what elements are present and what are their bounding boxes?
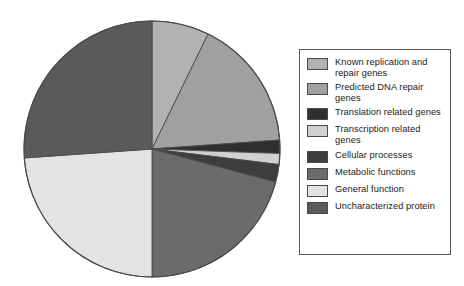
- legend-swatch-metabolic-functions: [307, 168, 328, 180]
- legend-swatch-translation-related-genes: [307, 108, 328, 120]
- legend-item-metabolic-functions: Metabolic functions: [307, 167, 444, 180]
- legend-label-known-replication-and-repair-genes: Known replication and repair genes: [335, 57, 444, 78]
- legend-swatch-general-function: [307, 185, 328, 197]
- legend-swatch-uncharacterized-protein: [307, 202, 328, 214]
- legend-swatch-cellular-processes: [307, 151, 328, 163]
- legend-item-translation-related-genes: Translation related genes: [307, 107, 444, 120]
- pie-slice-uncharacterized-protein: [24, 21, 152, 158]
- pie-chart-svg: [22, 19, 282, 279]
- legend-label-translation-related-genes: Translation related genes: [335, 107, 441, 118]
- legend-swatch-transcription-related-genes: [307, 125, 328, 137]
- legend-item-transcription-related-genes: Transcription related genes: [307, 124, 444, 145]
- legend-label-transcription-related-genes: Transcription related genes: [335, 124, 444, 145]
- legend-item-general-function: General function: [307, 184, 444, 197]
- pie-slice-general-function: [24, 149, 152, 277]
- legend-label-predicted-dna-repair-genes: Predicted DNA repair genes: [335, 82, 444, 103]
- legend-label-metabolic-functions: Metabolic functions: [335, 167, 416, 178]
- legend-swatch-predicted-dna-repair-genes: [307, 83, 328, 95]
- pie-chart-plot-area: [22, 19, 282, 279]
- pie-slice-group: [24, 21, 280, 277]
- legend-item-predicted-dna-repair-genes: Predicted DNA repair genes: [307, 82, 444, 103]
- chart-legend: Known replication and repair genes Predi…: [299, 49, 451, 255]
- legend-label-general-function: General function: [335, 184, 404, 195]
- legend-swatch-known-replication-and-repair-genes: [307, 58, 328, 70]
- legend-label-uncharacterized-protein: Uncharacterized protein: [335, 201, 435, 212]
- legend-item-cellular-processes: Cellular processes: [307, 150, 444, 163]
- legend-item-uncharacterized-protein: Uncharacterized protein: [307, 201, 444, 214]
- pie-chart-figure: Known replication and repair genes Predi…: [0, 0, 464, 286]
- legend-label-cellular-processes: Cellular processes: [335, 150, 412, 161]
- legend-item-known-replication-and-repair-genes: Known replication and repair genes: [307, 57, 444, 78]
